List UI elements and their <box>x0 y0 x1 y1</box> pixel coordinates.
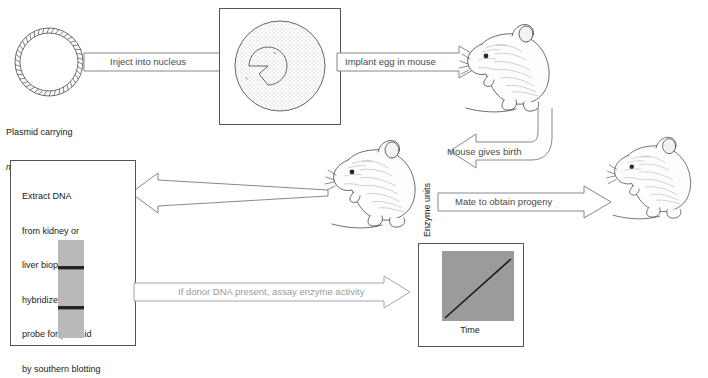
mouse-illustration <box>452 14 572 118</box>
arrow-mate-label: Mate to obtain progeny <box>455 196 552 207</box>
fertilized-egg <box>225 12 335 120</box>
southern-blot-lane <box>58 240 84 338</box>
arrow-extract-shape <box>130 172 330 214</box>
arrow-implant-label: Implant egg in mouse <box>345 56 436 67</box>
arrow-birth-label: Mouse gives birth <box>447 146 521 157</box>
analysis-line-5: by southern blotting <box>22 364 132 376</box>
analysis-line-0: Extract DNA <box>22 191 132 203</box>
plasmid-caption-line1: Plasmid carrying <box>6 127 75 139</box>
mouse-illustration <box>318 130 438 234</box>
chart-xlabel: Time <box>418 325 522 335</box>
enzyme-chart: Enzyme units Time <box>418 243 522 345</box>
plasmid-ring-icon <box>8 22 90 102</box>
mouse-implanted <box>452 14 572 118</box>
mouse-progeny <box>600 124 708 228</box>
arrow-assay-label: If donor DNA present, assay enzyme activ… <box>178 286 364 297</box>
blot-band <box>58 266 84 269</box>
arrow-extract <box>130 172 330 214</box>
analysis-line-1: from kidney or <box>22 226 132 238</box>
mouse-illustration <box>600 124 708 228</box>
chart-ylabel: Enzyme units <box>422 183 432 253</box>
chart-plot-area <box>442 251 514 321</box>
mouse-pregnant <box>318 130 438 234</box>
arrow-birth-shape <box>448 108 558 170</box>
egg-cell-shape <box>225 12 335 120</box>
southern-blot-shape <box>58 240 84 338</box>
plasmid-group <box>8 22 90 102</box>
blot-band <box>58 306 84 309</box>
arrow-inject-label: Inject into nucleus <box>110 56 186 67</box>
arrow-birth-path <box>448 108 558 170</box>
